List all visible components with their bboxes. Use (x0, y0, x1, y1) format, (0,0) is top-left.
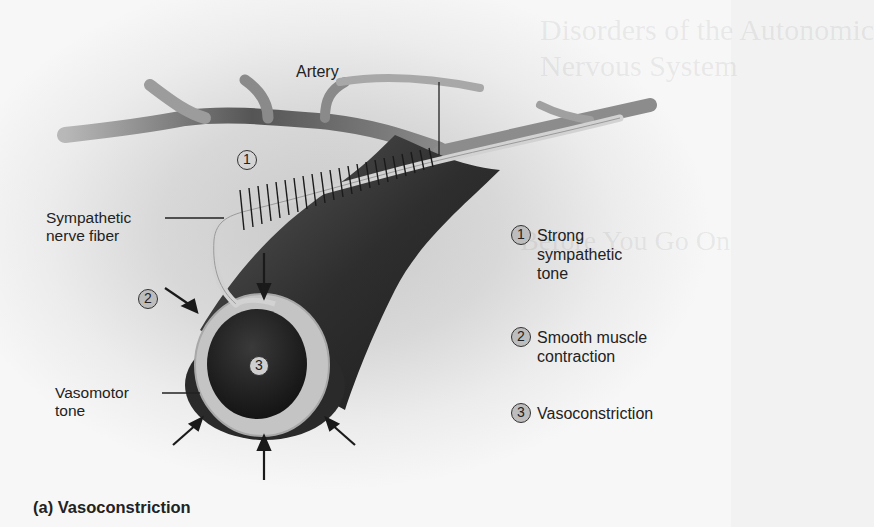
legend-text-2: Smooth muscle contraction (537, 328, 647, 366)
legend-text-3: Vasoconstriction (537, 404, 653, 423)
artery-label: Artery (296, 63, 339, 81)
arrow-diagonal-icon (165, 288, 190, 305)
legend-text-1: Strong sympathetic tone (537, 226, 622, 283)
legend-badge-2: 2 (511, 327, 531, 347)
vasomotor-tone-label: Vasomotor tone (55, 384, 129, 420)
legend-badge-3: 3 (511, 403, 531, 423)
figure-caption: (a) Vasoconstriction (33, 498, 191, 517)
marker-3: 3 (249, 356, 269, 376)
marker-1: 1 (237, 150, 257, 170)
marker-2: 2 (138, 289, 158, 309)
legend-badge-1: 1 (511, 225, 531, 245)
nerve-fiber-label: Sympathetic nerve fiber (46, 209, 131, 245)
arterial-branches (65, 78, 650, 152)
